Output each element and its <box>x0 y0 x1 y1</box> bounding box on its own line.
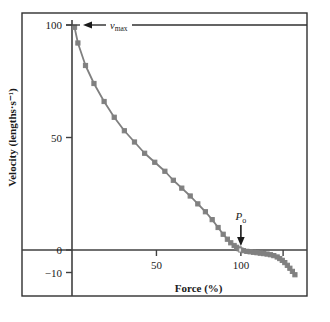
data-point <box>92 81 96 85</box>
data-point <box>180 186 184 190</box>
data-point <box>122 129 126 133</box>
data-point <box>153 160 157 164</box>
y-axis-title: Velocity (lengths·s⁻¹) <box>6 88 19 187</box>
y-tick-label: 100 <box>46 19 63 31</box>
figure-container: 100500−1050100Force (%)Velocity (lengths… <box>0 0 330 322</box>
force-velocity-chart: 100500−1050100Force (%)Velocity (lengths… <box>0 0 330 322</box>
data-point <box>72 25 76 29</box>
p0-arrow-icon <box>237 237 245 246</box>
x-axis-title: Force (%) <box>175 282 223 295</box>
data-point <box>216 225 220 229</box>
data-point <box>203 210 207 214</box>
data-point <box>221 232 225 236</box>
data-point <box>112 115 116 119</box>
data-point <box>293 273 297 277</box>
data-point <box>132 140 136 144</box>
p0-label: Po <box>235 210 247 225</box>
y-tick-label: 0 <box>57 244 63 256</box>
y-tick-label: −10 <box>45 267 63 279</box>
data-point <box>102 99 106 103</box>
vmax-label: vmax <box>110 20 128 34</box>
data-point <box>143 151 147 155</box>
data-point <box>171 178 175 182</box>
data-point <box>163 169 167 173</box>
x-tick-label: 50 <box>151 259 163 271</box>
data-point <box>188 194 192 198</box>
vmax-arrow-icon <box>83 21 92 28</box>
x-tick-label: 100 <box>233 259 250 271</box>
y-tick-label: 50 <box>51 132 63 144</box>
data-point <box>83 63 87 67</box>
data-point <box>196 202 200 206</box>
data-point <box>76 41 80 45</box>
data-point <box>210 218 214 222</box>
data-curve <box>75 27 295 275</box>
